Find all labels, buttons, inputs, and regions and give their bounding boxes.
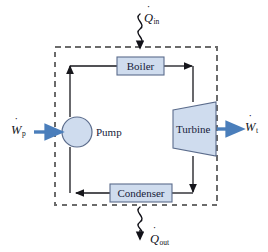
overdot-wp: ˙ [14, 116, 18, 128]
heat-in-squiggle [138, 14, 142, 48]
pump-circle[interactable] [62, 117, 92, 147]
flow-condenser-to-pump [70, 147, 110, 193]
heat-out-subscript: out [160, 238, 170, 247]
pump-label: Pump [96, 127, 122, 138]
overdot-qout: ˙ [153, 225, 157, 237]
flow-boiler-to-turbine [164, 66, 193, 102]
turbine-label: Turbine [176, 124, 210, 135]
heat-out-label: ˙Qout [150, 233, 169, 246]
pump-work-subscript: p [22, 129, 26, 138]
turbine-work-label: ˙Wt [245, 121, 258, 134]
diagram-canvas [0, 0, 268, 252]
flow-pump-to-boiler [70, 66, 117, 117]
heat-out-squiggle [138, 207, 142, 239]
overdot-qin: ˙ [147, 4, 151, 16]
condenser-label: Condenser [111, 188, 171, 199]
flow-turbine-to-condenser [172, 156, 193, 193]
boiler-label: Boiler [119, 61, 162, 72]
turbine-work-subscript: t [256, 126, 258, 135]
rankine-cycle-diagram: Boiler Condenser Pump Turbine ˙Qin ˙Qout… [0, 0, 268, 252]
heat-in-label: ˙Qin [144, 12, 159, 25]
heat-in-subscript: in [154, 17, 160, 26]
pump-work-label: ˙Wp [11, 124, 25, 137]
overdot-wt: ˙ [248, 113, 252, 125]
